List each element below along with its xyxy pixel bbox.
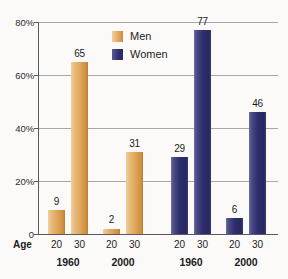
bar-men-1960-age20 — [48, 210, 65, 234]
bar-value-men-2000-age20: 2 — [109, 214, 114, 225]
y-axis-tick-label: 80% — [0, 17, 34, 28]
bar-value-men-2000-age30: 31 — [129, 138, 140, 149]
bar-chart: 80% 60% 40% 20% 0 9 65 2 31 2 — [0, 0, 288, 279]
bar-men-2000-age20 — [103, 229, 120, 234]
x-tick-women-1960-age30: 30 — [197, 239, 208, 250]
y-axis-tick-label: 60% — [0, 70, 34, 81]
bar-women-2000-age30 — [249, 112, 266, 234]
bar-women-2000-age20 — [226, 218, 243, 234]
legend-item-men[interactable]: Men — [112, 28, 168, 44]
x-group-label-women-1960: 1960 — [180, 256, 203, 268]
x-group-label-men-1960: 1960 — [57, 256, 80, 268]
legend-label-men: Men — [130, 30, 151, 42]
bar-value-women-2000-age20: 6 — [232, 204, 237, 215]
legend-item-women[interactable]: Women — [112, 46, 168, 62]
x-tick-men-2000-age30: 30 — [129, 239, 140, 250]
bar-value-women-2000-age30: 46 — [252, 98, 263, 109]
x-axis-line — [38, 234, 278, 235]
x-axis-title: Age — [13, 239, 32, 250]
bar-value-women-1960-age20: 29 — [174, 143, 185, 154]
x-group-label-men-2000: 2000 — [112, 256, 135, 268]
legend-label-women: Women — [130, 48, 168, 60]
x-tick-men-1960-age30: 30 — [74, 239, 85, 250]
x-tick-women-1960-age20: 20 — [174, 239, 185, 250]
bar-value-men-1960-age30: 65 — [74, 48, 85, 59]
y-axis-tick-label: 20% — [0, 176, 34, 187]
bar-men-2000-age30 — [126, 152, 143, 234]
bar-value-women-1960-age30: 77 — [197, 16, 208, 27]
y-axis-tick-label: 40% — [0, 123, 34, 134]
x-tick-women-2000-age20: 20 — [229, 239, 240, 250]
x-tick-women-2000-age30: 30 — [252, 239, 263, 250]
bar-women-1960-age30 — [194, 30, 211, 234]
legend-swatch-women-icon — [112, 49, 123, 60]
bar-value-men-1960-age20: 9 — [54, 196, 59, 207]
x-axis-labels: Age 20 30 20 30 20 30 20 30 1960 2000 19… — [0, 236, 288, 279]
legend-swatch-men-icon — [112, 31, 123, 42]
x-group-label-women-2000: 2000 — [235, 256, 258, 268]
legend: Men Women — [112, 28, 168, 64]
x-tick-men-1960-age20: 20 — [51, 239, 62, 250]
x-tick-men-2000-age20: 20 — [106, 239, 117, 250]
bar-men-1960-age30 — [71, 62, 88, 234]
bar-women-1960-age20 — [171, 157, 188, 234]
